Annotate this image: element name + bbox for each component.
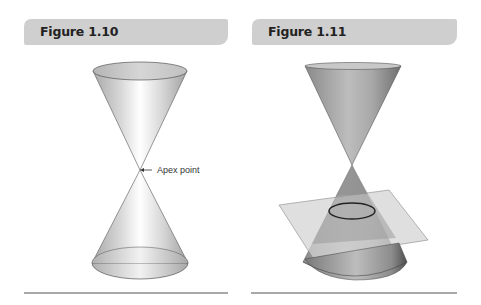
figure-1-10-bottom-rule	[24, 292, 228, 294]
figures-canvas: Apex point	[0, 0, 481, 305]
cone-plane-section-diagram	[279, 63, 428, 281]
figure-1-11-bottom-rule	[251, 292, 457, 294]
double-cone-diagram: Apex point	[92, 62, 200, 279]
apex-point-label: Apex point	[157, 165, 200, 175]
arrow-left-icon	[140, 168, 153, 172]
